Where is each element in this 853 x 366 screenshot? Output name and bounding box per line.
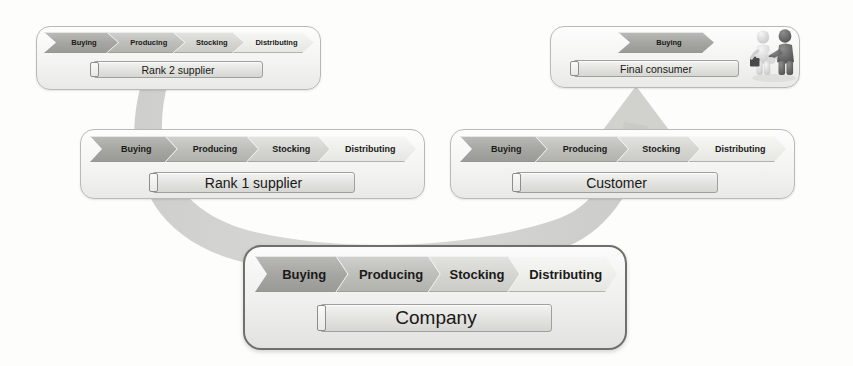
entity-label: Company [395,307,476,329]
process-band-final-consumer: Buying [618,32,714,53]
chevron-label: Distributing [249,38,297,47]
chevron-label: Stocking [266,144,310,154]
chevron-label: Stocking [190,38,228,47]
entity-label: Final consumer [620,63,692,75]
chevron-producing[interactable]: Producing [336,256,439,292]
chevron-label: Stocking [444,267,505,282]
chevron-buying[interactable]: Buying [44,32,118,53]
chevron-distributing[interactable]: Distributing [508,256,617,292]
chevron-buying[interactable]: Buying [618,32,714,53]
chevron-buying[interactable]: Buying [460,136,547,162]
chevron-distributing[interactable]: Distributing [319,136,416,162]
entity-label-bar-rank-2-supplier[interactable]: Rank 2 supplier [93,61,263,78]
chevron-label: Buying [485,144,522,154]
entity-label: Rank 2 supplier [142,64,215,76]
handshake-figures-icon [748,27,800,83]
bar-end-tab [317,305,326,331]
chevron-buying[interactable]: Buying [255,256,347,292]
bar-end-tab [512,173,521,192]
process-band-company: Buying Producing Stocking Distributing [255,256,617,292]
diagram-canvas: Buying Producing Stocking Distributing R… [0,0,853,366]
arc-arrowhead [600,86,672,134]
bar-end-tab [570,61,579,76]
chevron-buying[interactable]: Buying [90,136,177,162]
entity-label: Customer [586,175,647,191]
chevron-label: Producing [124,38,167,47]
chevron-label: Buying [276,267,326,282]
process-band-rank-1-supplier: Buying Producing Stocking Distributing [90,136,416,162]
chevron-stocking[interactable]: Stocking [247,136,330,162]
entity-label: Rank 1 supplier [205,175,302,191]
chevron-label: Buying [650,38,681,47]
process-band-rank-2-supplier: Buying Producing Stocking Distributing [44,32,314,53]
chevron-label: Buying [65,38,96,47]
chevron-distributing[interactable]: Distributing [689,136,786,162]
chevron-label: Distributing [339,144,396,154]
chevron-label: Stocking [636,144,680,154]
bar-end-tab [149,173,158,192]
chevron-stocking[interactable]: Stocking [429,256,520,292]
entity-label-bar-company[interactable]: Company [320,304,552,332]
chevron-label: Producing [353,267,423,282]
chevron-producing[interactable]: Producing [107,32,185,53]
entity-label-bar-final-consumer[interactable]: Final consumer [573,60,739,77]
entity-label-bar-customer[interactable]: Customer [515,172,718,193]
entity-label-bar-rank-1-supplier[interactable]: Rank 1 supplier [152,172,355,193]
chevron-label: Producing [187,144,238,154]
chevron-label: Producing [557,144,608,154]
process-band-customer: Buying Producing Stocking Distributing [460,136,786,162]
chevron-distributing[interactable]: Distributing [233,32,314,53]
chevron-label: Buying [115,144,152,154]
bar-end-tab [90,62,99,77]
chevron-label: Distributing [523,267,602,282]
chevron-label: Distributing [709,144,766,154]
chevron-stocking[interactable]: Stocking [617,136,700,162]
chevron-producing[interactable]: Producing [536,136,628,162]
chevron-producing[interactable]: Producing [166,136,258,162]
